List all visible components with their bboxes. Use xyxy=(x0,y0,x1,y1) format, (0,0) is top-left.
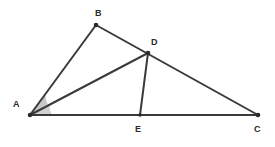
segment-BC xyxy=(96,25,258,115)
vertex-dot-C xyxy=(256,113,261,118)
vertex-label-A: A xyxy=(13,100,20,109)
vertex-dot-B xyxy=(94,23,99,28)
vertex-dot-D xyxy=(146,51,151,56)
vertex-label-C: C xyxy=(254,125,261,134)
vertex-label-D: D xyxy=(151,38,158,47)
segment-AD xyxy=(30,53,148,115)
geometry-figure: A B C D E xyxy=(0,0,275,147)
vertex-label-E: E xyxy=(135,125,141,134)
vertex-label-B: B xyxy=(95,9,102,18)
segment-AB xyxy=(30,25,96,115)
vertex-dot-A xyxy=(28,113,33,118)
segment-DE xyxy=(140,53,148,115)
vertex-dot-E xyxy=(138,113,142,117)
